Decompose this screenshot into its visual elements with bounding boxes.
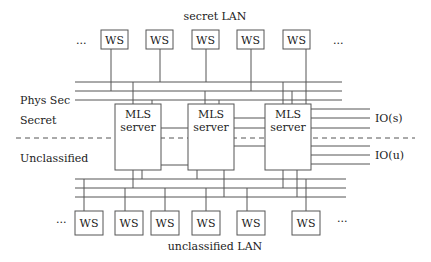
server-label-line1: MLS	[198, 108, 224, 121]
ws-label: WS	[105, 34, 124, 47]
workstation: WS	[101, 30, 128, 49]
server-label-line1: MLS	[275, 108, 301, 121]
workstation: WS	[75, 211, 103, 235]
secret-lan-label: secret LAN	[184, 10, 247, 23]
io-secret-label: IO(s)	[375, 112, 403, 125]
workstation: WS	[237, 30, 264, 49]
ws-label: WS	[197, 217, 216, 230]
ws-label: WS	[156, 217, 175, 230]
top-right-ellipsis: ...	[333, 34, 344, 47]
secret-zone-label: Secret	[20, 114, 57, 127]
unclassified-lan-label: unclassified LAN	[168, 240, 263, 253]
ws-label: WS	[196, 34, 215, 47]
mls-server: MLS server	[265, 104, 311, 170]
workstation: WS	[192, 211, 220, 235]
workstation: WS	[292, 211, 320, 235]
bottom-left-ellipsis: ...	[56, 213, 67, 226]
workstation: WS	[146, 30, 173, 49]
server-label-line2: server	[193, 121, 229, 134]
workstation: WS	[237, 211, 265, 235]
io-unclassified-label: IO(u)	[375, 149, 404, 162]
server-label-line1: MLS	[125, 108, 151, 121]
workstation: WS	[151, 211, 179, 235]
workstation: WS	[192, 30, 219, 49]
top-left-ellipsis: ...	[76, 34, 87, 47]
mls-server: MLS server	[188, 104, 234, 170]
server-label-line2: server	[120, 121, 156, 134]
bottom-right-ellipsis: ...	[337, 212, 348, 225]
ws-label: WS	[242, 217, 261, 230]
ws-label: WS	[150, 34, 169, 47]
mls-network-diagram: secret LAN unclassified LAN Phys Sec Sec…	[0, 0, 431, 262]
ws-label: WS	[80, 217, 99, 230]
workstation: WS	[283, 30, 310, 49]
phys-sec-label: Phys Sec	[20, 94, 70, 107]
server-label-line2: server	[270, 121, 306, 134]
ws-label: WS	[287, 34, 306, 47]
ws-label: WS	[297, 217, 316, 230]
workstation: WS	[115, 211, 143, 235]
ws-label: WS	[241, 34, 260, 47]
unclassified-zone-label: Unclassified	[20, 152, 88, 165]
mls-server: MLS server	[115, 104, 161, 170]
ws-label: WS	[120, 217, 139, 230]
